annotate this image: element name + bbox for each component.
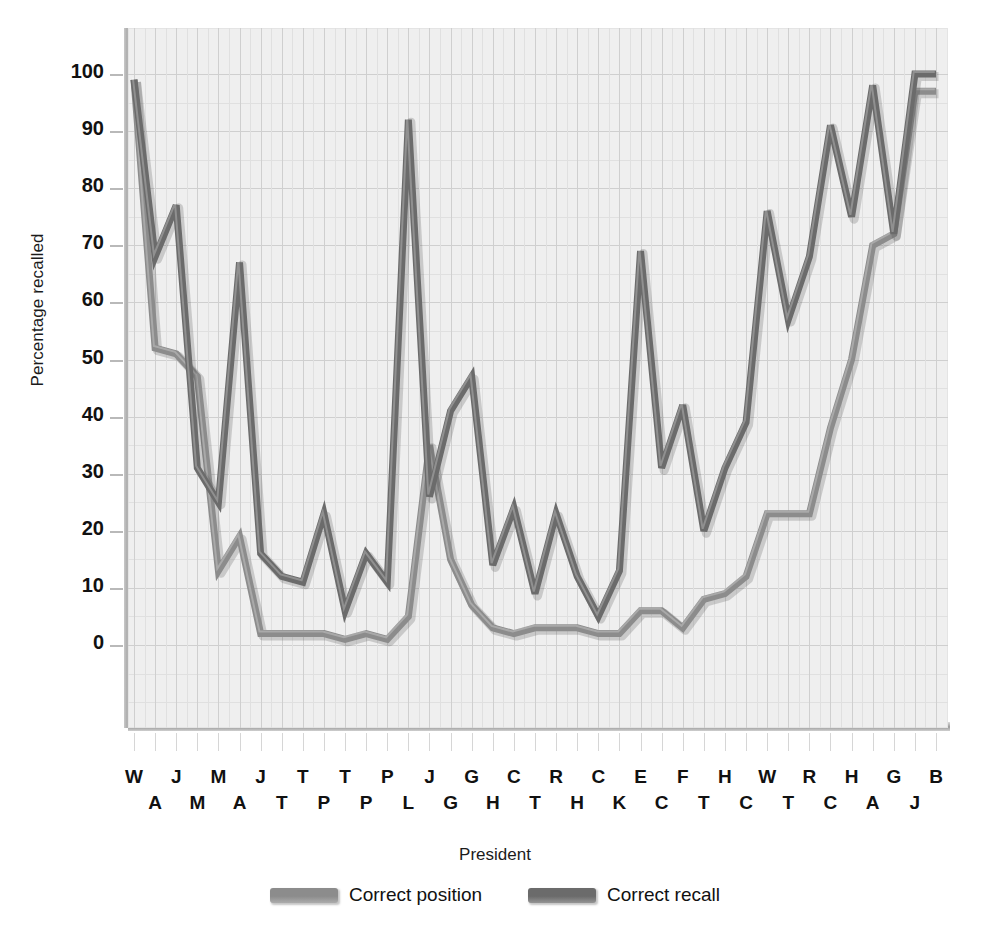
x-tick-mark bbox=[429, 733, 430, 751]
x-tick-mark bbox=[218, 733, 219, 751]
x-tick-label-top: T bbox=[325, 766, 365, 788]
x-tick-mark bbox=[936, 733, 937, 751]
x-tick-label-top: J bbox=[409, 766, 449, 788]
x-tick-label-bottom: J bbox=[895, 792, 935, 814]
x-tick-mark bbox=[282, 733, 283, 751]
x-tick-label-bottom: T bbox=[768, 792, 808, 814]
y-tick-mark bbox=[110, 245, 123, 247]
x-tick-mark bbox=[894, 733, 895, 751]
x-tick-label-bottom: C bbox=[810, 792, 850, 814]
x-tick-label-top: H bbox=[705, 766, 745, 788]
x-tick-mark bbox=[408, 733, 409, 751]
x-tick-mark bbox=[873, 733, 874, 751]
x-tick-label-bottom: K bbox=[599, 792, 639, 814]
y-tick-label: 70 bbox=[52, 231, 104, 254]
x-tick-mark bbox=[809, 733, 810, 751]
x-tick-label-top: H bbox=[832, 766, 872, 788]
x-tick-mark bbox=[619, 733, 620, 751]
x-tick-mark bbox=[366, 733, 367, 751]
x-tick-mark bbox=[261, 733, 262, 751]
x-tick-mark bbox=[830, 733, 831, 751]
x-tick-label-bottom: M bbox=[177, 792, 217, 814]
x-tick-label-top: C bbox=[494, 766, 534, 788]
x-tick-label-top: M bbox=[198, 766, 238, 788]
y-tick-label: 90 bbox=[52, 117, 104, 140]
x-tick-label-bottom: T bbox=[684, 792, 724, 814]
x-tick-mark bbox=[303, 733, 304, 751]
series-line-highlight bbox=[133, 72, 935, 614]
y-tick-mark bbox=[110, 531, 123, 533]
x-tick-label-bottom: A bbox=[135, 792, 175, 814]
chart-root: Percentage recalled 10090807060504030201… bbox=[0, 0, 990, 938]
legend-label: Correct recall bbox=[607, 884, 720, 906]
legend-item[interactable]: Correct position bbox=[270, 884, 482, 906]
x-tick-label-top: T bbox=[283, 766, 323, 788]
y-tick-label: 80 bbox=[52, 174, 104, 197]
x-tick-mark bbox=[598, 733, 599, 751]
x-tick-label-bottom: P bbox=[346, 792, 386, 814]
y-tick-label: 40 bbox=[52, 403, 104, 426]
series-line bbox=[134, 80, 936, 640]
x-tick-label-top: R bbox=[789, 766, 829, 788]
x-tick-mark bbox=[556, 733, 557, 751]
y-tick-mark bbox=[110, 74, 123, 76]
x-tick-mark bbox=[746, 733, 747, 751]
y-axis-title: Percentage recalled bbox=[28, 210, 48, 410]
x-tick-label-top: F bbox=[663, 766, 703, 788]
y-tick-label: 100 bbox=[52, 60, 104, 83]
y-tick-label: 10 bbox=[52, 574, 104, 597]
legend-swatch bbox=[528, 888, 596, 903]
x-tick-label-top: W bbox=[747, 766, 787, 788]
x-tick-label-top: E bbox=[621, 766, 661, 788]
x-tick-mark bbox=[240, 733, 241, 751]
legend-swatch bbox=[270, 888, 338, 903]
x-tick-mark bbox=[662, 733, 663, 751]
y-tick-label: 0 bbox=[52, 631, 104, 654]
x-tick-mark bbox=[493, 733, 494, 751]
x-tick-label-bottom: C bbox=[726, 792, 766, 814]
y-tick-label: 50 bbox=[52, 346, 104, 369]
x-tick-mark bbox=[176, 733, 177, 751]
y-tick-mark bbox=[110, 302, 123, 304]
x-tick-mark bbox=[155, 733, 156, 751]
x-tick-label-bottom: C bbox=[642, 792, 682, 814]
x-tick-label-top: P bbox=[367, 766, 407, 788]
x-tick-label-top: G bbox=[874, 766, 914, 788]
y-tick-mark bbox=[110, 645, 123, 647]
x-tick-mark bbox=[324, 733, 325, 751]
x-axis-title: President bbox=[0, 845, 990, 865]
x-tick-label-top: C bbox=[578, 766, 618, 788]
x-tick-label-bottom: L bbox=[388, 792, 428, 814]
x-tick-mark bbox=[788, 733, 789, 751]
x-tick-mark bbox=[472, 733, 473, 751]
series-line bbox=[134, 74, 936, 616]
x-tick-label-bottom: T bbox=[262, 792, 302, 814]
x-tick-label-bottom: A bbox=[853, 792, 893, 814]
x-tick-label-bottom: G bbox=[431, 792, 471, 814]
y-tick-mark bbox=[110, 474, 123, 476]
x-tick-mark bbox=[345, 733, 346, 751]
y-tick-label: 20 bbox=[52, 517, 104, 540]
x-tick-mark bbox=[514, 733, 515, 751]
series-line-shadow bbox=[137, 82, 939, 642]
x-tick-label-top: R bbox=[536, 766, 576, 788]
legend-label: Correct position bbox=[349, 884, 482, 906]
y-tick-mark bbox=[110, 417, 123, 419]
y-tick-mark bbox=[110, 188, 123, 190]
y-tick-label: 30 bbox=[52, 460, 104, 483]
x-tick-mark bbox=[852, 733, 853, 751]
x-tick-label-top: W bbox=[114, 766, 154, 788]
x-tick-mark bbox=[577, 733, 578, 751]
y-tick-mark bbox=[110, 131, 123, 133]
plot-area bbox=[128, 28, 948, 728]
x-tick-mark bbox=[197, 733, 198, 751]
legend-item[interactable]: Correct recall bbox=[528, 884, 720, 906]
x-tick-mark bbox=[915, 733, 916, 751]
y-tick-mark bbox=[110, 360, 123, 362]
x-tick-mark bbox=[683, 733, 684, 751]
x-tick-label-bottom: H bbox=[557, 792, 597, 814]
y-tick-label: 60 bbox=[52, 288, 104, 311]
x-tick-mark bbox=[387, 733, 388, 751]
x-tick-label-top: B bbox=[916, 766, 956, 788]
x-tick-mark bbox=[704, 733, 705, 751]
